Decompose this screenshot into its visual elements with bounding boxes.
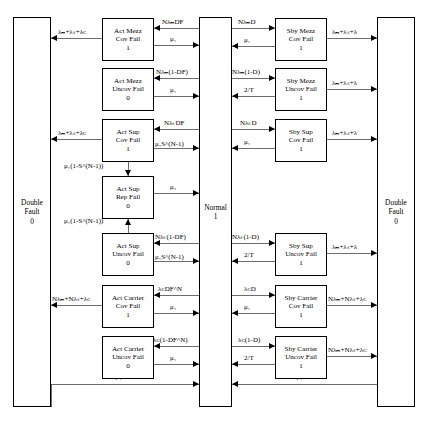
left-double-fault-line1: Double [21,198,43,207]
sby-carrier-uncov-line3: 1 [299,362,303,371]
sby-sup-uncov-line3: 1 [299,259,303,268]
act-sup-rep-line1: Act Sup [116,185,139,194]
act-sup-uncov-line3: 0 [126,259,130,268]
state-right-double-fault: Double Fault 0 [377,17,415,407]
edge-sby-carrier-uncov-to-df [327,356,377,357]
sby-mezz-uncov-line3: 1 [299,94,303,103]
sby-mezz-uncov-line1: Sby Mezz [287,77,316,86]
right-double-fault-line2: Fault [388,207,403,216]
label-act-sup-rep-out: μ₂ [170,183,176,191]
act-mezz-cov-line2: Cov Fail [116,35,141,44]
arrowhead-sby-mezz-cov-out [232,43,238,49]
arrowhead-sby-mezz-uncov-out [232,93,238,99]
edge-act-mezz-cov-to-df [51,38,102,39]
state-left-double-fault: Double Fault 0 [13,17,51,407]
label-sby-mezz-uncov-in: Nλₘ(1-D) [232,68,260,76]
sby-mezz-cov-line3: 1 [299,44,303,53]
edge-sby-mezz-uncov-out [232,96,275,97]
state-sby-carrier-cov-fail: Sby Carrier Cov Fail 1 [275,285,327,328]
label-sby-mezz-uncov-out: 2/T [244,86,254,94]
arrowhead-sby-carrier-cov-out [232,310,238,316]
arrowhead-bottom-right [232,381,238,387]
label-act-mezz-cov-out: μ₁ [170,35,176,43]
arrowhead-act-mezz-cov-to-df [51,35,57,41]
state-sby-mezz-uncov-fail: Sby Mezz Uncov Fail 1 [275,68,327,111]
label-act-carrier-uncov-in: λᴄ(1-DF^N) [153,336,188,344]
act-sup-cov-line1: Act Sup [116,128,139,137]
arrowhead-act-sup-cov-in [154,126,160,132]
label-sby-sup-uncov-out: 2/T [244,251,254,259]
act-carrier-cov-line1: Act Carrier [112,294,144,303]
sby-sup-uncov-line2: Uncov Fail [285,250,317,259]
state-act-sup-cov-fail: Act Sup Cov Fail 1 [102,119,154,162]
act-carrier-cov-line2: Cov Fail [116,302,141,311]
label-act-carrier-uncov-out: μ₁ [170,354,176,362]
act-carrier-uncov-line3: 0 [126,362,130,371]
normal-line2: 1 [214,212,218,221]
arrowhead-sby-sup-uncov-out [232,258,238,264]
normal-line1: Normal [204,203,227,212]
sby-sup-cov-line1: Sby Sup [289,128,313,137]
label-sby-mezz-cov-in: NλₘD [238,18,256,26]
label-act-carrier-cov-out: μ₁ [170,303,176,311]
state-act-carrier-cov-fail: Act Carrier Cov Fail 1 [102,285,154,328]
label-sby-sup-uncov-to-df: λₘ+λₛ+λ [332,243,357,251]
label-sby-carrier-cov-in: λᴄD [244,285,256,293]
act-mezz-uncov-line1: Act Mezz [114,77,142,86]
edge-act-mezz-uncov-in [154,78,199,79]
edge-sby-sup-uncov-out [232,261,275,262]
edge-act-carrier-cov-to-df [51,305,102,306]
edge-act-sup-uncov-in [154,243,199,244]
arrowhead-sby-sup-cov-out [232,145,238,151]
state-act-mezz-cov-fail: Act Mezz Cov Fail 1 [102,18,154,61]
label-sby-mezz-cov-out: μ₁ [244,36,250,44]
arrowhead-act-sup-cov-to-df [51,136,57,142]
label-act-mezz-uncov-out: μ₁ [170,86,176,94]
state-sby-sup-uncov-fail: Sby Sup Uncov Fail 1 [275,233,327,276]
act-sup-uncov-line1: Act Sup [116,242,139,251]
act-carrier-uncov-line1: Act Carrier [112,345,144,354]
act-sup-cov-line2: Cov Fail [116,136,141,145]
arrowhead-act-sup-uncov-up [125,219,131,225]
act-sup-cov-line3: 1 [126,145,130,154]
act-mezz-uncov-line3: 0 [126,94,130,103]
label-sby-carrier-uncov-out: 2/T [244,354,254,362]
state-act-mezz-uncov-fail: Act Mezz Uncov Fail 0 [102,68,154,111]
edge-sby-carrier-cov-to-df [327,305,377,306]
edge-bottom-right [232,384,377,385]
act-mezz-cov-line3: 1 [126,44,130,53]
label-act-mezz-cov-in: NλₘDF [162,18,183,26]
act-sup-uncov-line2: Uncov Fail [112,250,144,259]
edge-act-carrier-cov-in [154,295,199,296]
edge-bottom-left [51,384,199,385]
sby-carrier-cov-line2: Cov Fail [289,302,314,311]
edge-bottom-left-riser [51,384,52,407]
left-double-fault-line2: Fault [24,207,39,216]
sby-carrier-uncov-line1: Sby Carrier [285,345,318,354]
label-act-sup-cov-to-df: λₘ+λₛ+λᴄ [58,129,86,137]
edge-act-sup-cov-in [154,129,199,130]
label-sby-mezz-uncov-to-df: λₘ+λₛ+λ [332,79,357,87]
edge-sby-sup-uncov-to-df [327,253,377,254]
edge-sby-carrier-uncov-out [232,364,275,365]
edge-sby-mezz-uncov-to-df [327,89,377,90]
edge-sby-mezz-cov-to-df [327,38,377,39]
sby-sup-cov-line2: Cov Fail [289,136,314,145]
label-act-sup-uncov-in: Nλₛ(1-DF) [155,233,186,241]
label-act-carrier-cov-to-df: Nλₘ+Nλₛ+λᴄ [52,295,91,303]
edge-act-sup-cov-to-df [51,139,102,140]
edge-sby-mezz-cov-out [232,46,275,47]
label-sby-sup-cov-to-df: λₘ+λₛ+λ [332,129,357,137]
arrowhead-sby-carrier-uncov-out [232,361,238,367]
sby-carrier-cov-line3: 1 [299,311,303,320]
act-mezz-cov-line1: Act Mezz [114,27,142,36]
act-mezz-uncov-line2: Uncov Fail [112,85,144,94]
left-double-fault-line3: 0 [30,217,34,226]
state-act-sup-uncov-fail: Act Sup Uncov Fail 0 [102,233,154,276]
state-normal: Normal 1 [199,17,232,407]
act-sup-rep-line3: 0 [126,202,130,211]
label-act-mezz-uncov-in: Nλₘ(1-DF) [156,68,188,76]
sby-sup-cov-line3: 1 [299,145,303,154]
markov-diagram: Double Fault 0 Normal 1 Double Fault 0 A… [0,0,428,421]
sby-mezz-uncov-line2: Uncov Fail [285,85,317,94]
